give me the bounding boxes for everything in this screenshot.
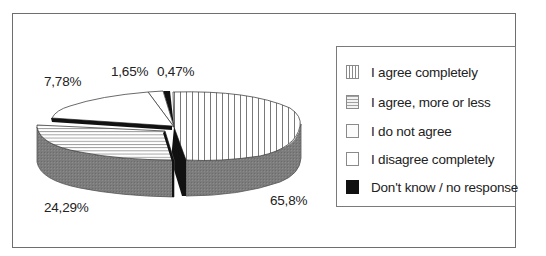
- vertical-hatch-swatch-icon: [346, 65, 359, 79]
- legend-item-agree-more-or-less: I agree, more or less: [346, 93, 491, 111]
- legend-label: I agree, more or less: [371, 95, 491, 110]
- data-label-disagree-completely: 1,65%: [111, 64, 148, 79]
- white-swatch-icon: [346, 152, 359, 166]
- white-swatch-icon: [346, 124, 359, 138]
- data-label-agree-completely: 65,8%: [270, 193, 307, 208]
- slice-agree-more-or-less: [37, 125, 174, 197]
- chart-legend: I agree completely I agree, more or less…: [336, 46, 516, 207]
- legend-item-dont-know: Don't know / no response: [346, 178, 518, 196]
- legend-item-disagree-completely: I disagree completely: [346, 150, 494, 168]
- legend-item-agree-completely: I agree completely: [346, 63, 478, 81]
- legend-label: Don't know / no response: [371, 180, 518, 195]
- legend-item-do-not-agree: I do not agree: [346, 122, 452, 140]
- data-label-dont-know: 0,47%: [157, 64, 194, 79]
- black-swatch-icon: [346, 180, 359, 194]
- legend-label: I disagree completely: [371, 152, 494, 167]
- legend-label: I do not agree: [371, 124, 452, 139]
- data-label-do-not-agree: 7,78%: [44, 74, 81, 89]
- data-label-agree-more-or-less: 24,29%: [44, 200, 89, 215]
- horizontal-hatch-swatch-icon: [346, 95, 359, 109]
- legend-label: I agree completely: [371, 65, 478, 80]
- slice-agree-completely: [173, 92, 301, 196]
